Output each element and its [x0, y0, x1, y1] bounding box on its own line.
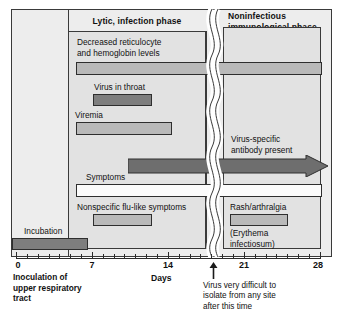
- bar-rash-arthralgia: [230, 214, 288, 226]
- annotation-inoculation-line1: Inoculation of: [13, 272, 118, 283]
- axis-tick-minor-19: [222, 254, 223, 258]
- callout-arrow-icon: [208, 262, 219, 279]
- caption-viremia: Viremia: [75, 110, 103, 121]
- axis-tick-minor-10: [124, 254, 125, 258]
- bar-incubation: [12, 238, 88, 250]
- axis-tick-14: [168, 252, 169, 259]
- annotation-isolation-line3: after this time: [203, 302, 321, 312]
- annotation-inoculation: Inoculation of upper respiratory tract: [13, 272, 118, 304]
- phase-title-noninfectious-line1: Noninfectious: [228, 11, 328, 22]
- caption-nonspecific-flu: Nonspecific flu-like symptoms: [77, 202, 186, 213]
- caption-erythema-infectiosum: (Erythema infectiosum): [230, 228, 320, 249]
- bar-viremia: [76, 122, 172, 135]
- axis-tick-minor-24: [276, 254, 277, 258]
- annotation-inoculation-line2: upper respiratory: [13, 283, 118, 294]
- axis-tick-minor-27: [309, 254, 310, 258]
- caption-reticulocyte: Decreased reticulocyte and hemoglobin le…: [77, 37, 197, 58]
- axis-tick-minor-3: [49, 254, 50, 258]
- bar-antibody-arrow: [128, 155, 328, 177]
- axis-tick-minor-20: [233, 254, 234, 258]
- bar-virus-in-throat: [93, 94, 152, 106]
- wavy-break-divider: [198, 9, 226, 257]
- axis-label-14: 14: [163, 260, 173, 270]
- axis-tick-minor-22: [255, 254, 256, 258]
- caption-symptoms: Symptoms: [86, 172, 125, 183]
- axis-tick-minor-1: [27, 254, 28, 258]
- axis-tick-28: [320, 252, 321, 259]
- axis-label-28: 28: [313, 260, 323, 270]
- axis-tick-minor-5: [70, 254, 71, 258]
- annotation-inoculation-line3: tract: [13, 293, 118, 304]
- axis-tick-minor-2: [38, 254, 39, 258]
- axis-tick-minor-26: [298, 254, 299, 258]
- annotation-isolation: Virus very difficult to isolate from any…: [203, 281, 321, 312]
- axis-label-7: 7: [89, 260, 94, 270]
- caption-incubation: Incubation: [24, 226, 62, 237]
- axis-tick-minor-9: [114, 254, 115, 258]
- caption-antibody-line2: antibody present: [231, 145, 323, 156]
- phase-title-lytic: Lytic, infection phase: [72, 16, 202, 27]
- caption-antibody-line1: Virus-specific: [231, 134, 323, 145]
- axis-tick-minor-13: [157, 254, 158, 258]
- caption-erythema-line2: infectiosum): [230, 239, 320, 250]
- axis-tick-minor-18: [211, 254, 212, 258]
- figure-canvas: Lytic, infection phase Noninfectious imm…: [0, 0, 343, 322]
- axis-tick-minor-23: [266, 254, 267, 258]
- caption-erythema-line1: (Erythema: [230, 228, 320, 239]
- axis-tick-minor-6: [81, 254, 82, 258]
- caption-rash-arthralgia: Rash/arthralgia: [230, 202, 286, 213]
- axis-tick-21: [244, 252, 245, 259]
- bar-nonspecific-flu: [93, 214, 152, 226]
- caption-reticulocyte-line2: and hemoglobin levels: [77, 48, 197, 59]
- annotation-isolation-line1: Virus very difficult to: [203, 281, 321, 291]
- caption-virus-in-throat: Virus in throat: [94, 82, 145, 93]
- axis-tick-7: [92, 252, 93, 259]
- axis-tick-minor-25: [287, 254, 288, 258]
- axis-label-21: 21: [239, 260, 249, 270]
- axis-tick-minor-4: [59, 254, 60, 258]
- axis-tick-minor-8: [103, 254, 104, 258]
- axis-tick-minor-16: [190, 254, 191, 258]
- axis-tick-minor-11: [135, 254, 136, 258]
- caption-reticulocyte-line1: Decreased reticulocyte: [77, 37, 197, 48]
- axis-tick-minor-17: [200, 254, 201, 258]
- caption-antibody: Virus-specific antibody present: [231, 134, 323, 155]
- axis-tick-0: [16, 252, 17, 259]
- axis-tick-minor-15: [179, 254, 180, 258]
- annotation-isolation-line2: isolate from any site: [203, 291, 321, 301]
- axis-title-days: Days: [151, 273, 172, 283]
- axis-tick-minor-12: [146, 254, 147, 258]
- axis-label-0: 0: [15, 260, 20, 270]
